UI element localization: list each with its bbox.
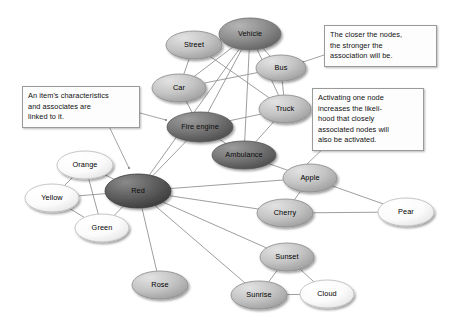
edge-bus-car <box>204 73 257 83</box>
edge-cherry-pear <box>313 212 378 213</box>
node-car[interactable]: Car <box>152 74 206 102</box>
node-bus[interactable]: Bus <box>256 55 306 81</box>
edge-bus-truck <box>282 81 283 95</box>
node-orange[interactable]: Orange <box>57 151 113 179</box>
edge-ambulance-apple <box>269 164 288 170</box>
edge-red-cherry <box>170 196 258 209</box>
edge-sunset-cloud <box>300 269 314 282</box>
node-rose[interactable]: Rose <box>132 271 188 299</box>
leader-line-item-characteristics-0 <box>140 113 166 120</box>
edge-red-yellow <box>79 194 106 196</box>
callout-item-characteristics: An item's characteristics and associates… <box>22 86 140 128</box>
node-shape-pear <box>378 198 434 226</box>
edge-apple-pear <box>332 186 383 204</box>
node-shape-yellow <box>25 184 79 212</box>
node-pear[interactable]: Pear <box>378 198 434 226</box>
node-shape-cloud <box>300 280 354 308</box>
callout-activating-node: Activating one node increases the likeli… <box>312 88 424 151</box>
node-sunrise[interactable]: Sunrise <box>231 281 287 309</box>
edge-yellow-green <box>70 209 85 218</box>
edge-street-car <box>184 59 189 74</box>
node-shape-cherry <box>257 199 313 227</box>
edge-orange-yellow <box>64 178 72 186</box>
node-cloud[interactable]: Cloud <box>300 280 354 308</box>
edge-red-rose <box>142 208 157 271</box>
node-shape-apple <box>283 164 337 192</box>
node-apple[interactable]: Apple <box>283 164 337 192</box>
node-red[interactable]: Red <box>105 174 171 208</box>
edge-orange-green <box>89 179 99 214</box>
node-shape-fireengine <box>167 112 233 142</box>
node-shape-green <box>75 214 129 242</box>
node-shape-red <box>105 174 171 208</box>
node-shape-bus <box>256 55 306 81</box>
node-shape-vehicle <box>219 18 281 50</box>
leader-endpoint-item-characteristics-1 <box>128 167 130 169</box>
leader-line-closer-nodes-0 <box>303 55 324 62</box>
node-cherry[interactable]: Cherry <box>257 199 313 227</box>
edge-truck-ambulance <box>256 122 274 142</box>
node-shape-truck <box>259 95 311 123</box>
node-shape-street <box>166 31 222 59</box>
edge-red-sunset <box>163 202 266 248</box>
node-shape-rose <box>132 271 188 299</box>
node-shape-car <box>152 74 206 102</box>
edge-red-apple <box>171 180 284 189</box>
node-green[interactable]: Green <box>75 214 129 242</box>
node-shape-ambulance <box>212 141 276 169</box>
edge-sunset-sunrise <box>269 270 278 282</box>
edge-fireengine-ambulance <box>219 139 226 143</box>
node-ambulance[interactable]: Ambulance <box>212 141 276 169</box>
node-street[interactable]: Street <box>166 31 222 59</box>
node-shape-sunrise <box>231 281 287 309</box>
node-shape-sunset <box>260 243 314 271</box>
edge-vehicle-ambulance <box>245 50 250 141</box>
diagram-canvas: StreetVehicleBusCarTruckFire engineAmbul… <box>0 0 460 323</box>
node-vehicle[interactable]: Vehicle <box>219 18 281 50</box>
edge-car-fireengine <box>186 101 192 112</box>
edge-apple-cherry <box>294 191 300 200</box>
leader-endpoint-item-characteristics-0 <box>165 119 167 121</box>
edge-vehicle-bus <box>263 48 270 56</box>
edge-red-green <box>114 206 123 215</box>
node-sunset[interactable]: Sunset <box>260 243 314 271</box>
node-fireengine[interactable]: Fire engine <box>167 112 233 142</box>
edge-red-orange <box>105 175 114 179</box>
node-shape-orange <box>57 151 113 179</box>
callout-closer-nodes: The closer the nodes, the stronger the a… <box>324 25 437 67</box>
node-yellow[interactable]: Yellow <box>25 184 79 212</box>
node-truck[interactable]: Truck <box>259 95 311 123</box>
